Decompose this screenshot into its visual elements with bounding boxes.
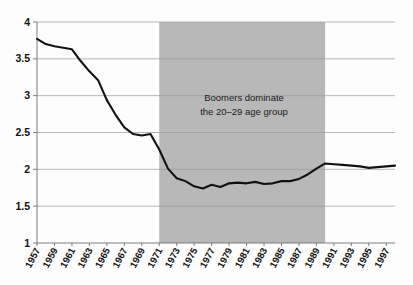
- x-tick-label: 1961: [58, 245, 78, 269]
- x-tick-label: 1981: [232, 245, 252, 269]
- x-tick-label: 1971: [145, 245, 165, 269]
- x-tick-label: 1989: [302, 246, 322, 270]
- y-axis-ticks-and-labels: 43.532.521.51: [15, 16, 37, 249]
- x-tick-label: 1991: [320, 245, 340, 269]
- x-tick-label: 1967: [110, 246, 130, 270]
- x-axis-ticks-and-labels: 1957195919611963196519671969197119731975…: [23, 243, 392, 270]
- x-tick-label: 1969: [127, 246, 147, 270]
- x-tick-label: 1987: [285, 246, 305, 270]
- chart-canvas: 43.532.521.51 19571959196119631965196719…: [0, 0, 413, 285]
- x-tick-label: 1983: [250, 246, 270, 270]
- x-tick-label: 1993: [337, 246, 357, 270]
- y-tick-label: 1.5: [15, 200, 30, 212]
- x-tick-label: 1985: [267, 245, 287, 269]
- y-tick-label: 3.5: [15, 52, 30, 64]
- x-tick-label: 1977: [197, 246, 217, 270]
- x-tick-label: 1973: [162, 246, 182, 270]
- x-tick-label: 1959: [40, 246, 60, 270]
- fertility-rate-line-chart: 43.532.521.51 19571959196119631965196719…: [0, 0, 413, 285]
- x-tick-label: 1963: [75, 246, 95, 270]
- y-tick-label: 2.5: [15, 126, 30, 138]
- x-tick-label: 1997: [372, 246, 392, 270]
- y-tick-label: 1: [24, 237, 30, 249]
- boomer-annotation-line-2: the 20–29 age group: [200, 106, 288, 117]
- x-tick-label: 1979: [215, 246, 235, 270]
- x-tick-label: 1975: [180, 245, 200, 269]
- boomer-annotation-line-1: Boomers dominate: [204, 92, 284, 103]
- x-tick-label: 1995: [354, 245, 374, 269]
- x-tick-label: 1965: [92, 245, 112, 269]
- y-tick-label: 3: [24, 89, 30, 101]
- x-tick-label: 1957: [23, 246, 43, 270]
- y-tick-label: 4: [24, 16, 30, 28]
- y-tick-label: 2: [24, 163, 30, 175]
